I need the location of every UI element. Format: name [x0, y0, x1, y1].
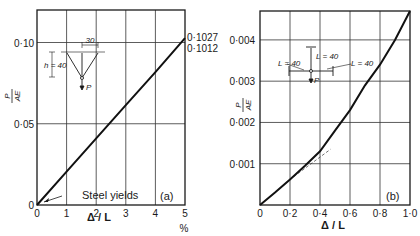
- x-tick-label: 1·0: [403, 208, 418, 219]
- panel-a-xunit: %: [180, 223, 189, 234]
- panel-a-ylabel: P AE: [3, 89, 22, 103]
- inset-width-label: 30: [86, 36, 95, 45]
- y-tick-label: 0: [28, 200, 34, 211]
- panel-b-xlabel: Δ / L: [321, 219, 345, 231]
- x-tick-label: 3: [123, 208, 129, 219]
- x-tick-label: 0·6: [343, 208, 358, 219]
- panel-b-label: (b): [386, 190, 399, 202]
- inset-load-label-b: P: [314, 76, 320, 85]
- x-tick-label: 0·8: [373, 208, 388, 219]
- svg-text:AE: AE: [13, 90, 22, 102]
- end-value-lower: 0·1012: [187, 43, 219, 54]
- y-tick-label: 0·10: [14, 38, 34, 49]
- x-tick-label: 4: [153, 208, 159, 219]
- y-tick-label: 0·002: [229, 117, 255, 128]
- end-value-upper: 0·1027: [187, 32, 219, 43]
- y-tick-label: 0·003: [229, 76, 255, 87]
- panel-b-xticks: 00·20·40·60·81·0: [257, 208, 417, 219]
- panel-a-yticks: 00·050·10: [14, 38, 34, 212]
- x-tick-label: 0: [257, 208, 263, 219]
- panel-a-label: (a): [160, 190, 173, 202]
- svg-text:P: P: [3, 93, 12, 99]
- y-tick-label: 0·05: [14, 119, 34, 130]
- inset-top-length: L = 40: [316, 52, 339, 61]
- y-tick-label: 0·004: [229, 35, 255, 46]
- panel-a-frame: [37, 10, 185, 205]
- x-tick-label: 0: [34, 208, 40, 219]
- x-tick-label: 1: [64, 208, 70, 219]
- svg-text:AE: AE: [244, 99, 253, 111]
- x-tick-label: 5: [182, 208, 188, 219]
- x-tick-label: 0·4: [313, 208, 328, 219]
- panel-b-ylabel: P AE: [234, 98, 253, 112]
- x-tick-label: 0·2: [283, 208, 298, 219]
- figure: 012345 00·050·10 0·1027 0·1012 Steel yie…: [0, 0, 420, 236]
- panel-a: 012345 00·050·10 0·1027 0·1012 Steel yie…: [3, 10, 219, 234]
- svg-text:P: P: [234, 102, 243, 108]
- panel-a-xticks: 012345: [34, 208, 188, 219]
- inset-load-label: P: [86, 83, 92, 92]
- inset-height-label: h = 40: [44, 61, 67, 70]
- grid-b: [260, 11, 410, 205]
- inset-right-length: L = 40: [351, 59, 374, 68]
- y-tick-label: 0·001: [229, 159, 255, 170]
- panel-b: 00·20·40·60·81·0 0·0010·0020·0030·004 (b…: [229, 11, 417, 231]
- grid-a: [37, 10, 185, 205]
- inset-left-length: L = 40: [278, 59, 301, 68]
- steel-yields-note: Steel yields: [82, 189, 139, 201]
- panel-a-xlabel: Δ / L: [87, 211, 111, 223]
